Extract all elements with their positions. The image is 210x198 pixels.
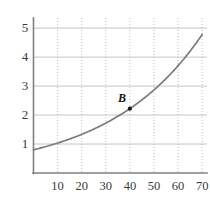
point-b-label: B bbox=[117, 91, 126, 105]
y-tick-label-2: 2 bbox=[22, 107, 29, 122]
y-tick-label-1: 1 bbox=[22, 136, 29, 151]
y-tick-label-4: 4 bbox=[22, 49, 29, 64]
exponential-curve-chart: B 12345 10203040506070 bbox=[0, 0, 210, 198]
x-tick-label-30: 30 bbox=[100, 179, 113, 193]
x-axis-tick-labels: 10203040506070 bbox=[51, 179, 208, 193]
x-tick-label-20: 20 bbox=[75, 179, 88, 193]
x-tick-label-50: 50 bbox=[148, 179, 161, 193]
vertical-gridlines bbox=[58, 18, 203, 173]
x-tick-label-70: 70 bbox=[196, 179, 209, 193]
horizontal-gridlines bbox=[34, 28, 208, 144]
y-tick-label-3: 3 bbox=[22, 78, 29, 93]
x-tick-label-60: 60 bbox=[172, 179, 185, 193]
x-tick-label-40: 40 bbox=[124, 179, 137, 193]
y-axis-tick-labels: 12345 bbox=[22, 20, 29, 151]
chart-screenshot: B 12345 10203040506070 bbox=[0, 0, 210, 198]
point-b-marker bbox=[128, 107, 132, 111]
y-tick-label-5: 5 bbox=[22, 20, 29, 35]
x-tick-label-10: 10 bbox=[51, 179, 64, 193]
plot-area: B 12345 10203040506070 bbox=[0, 0, 210, 198]
